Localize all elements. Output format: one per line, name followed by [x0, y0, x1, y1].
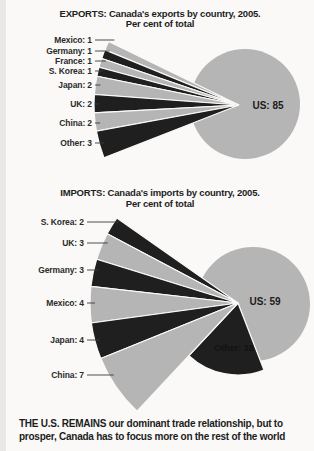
exports-us-slice-label: US: 85: [252, 100, 284, 111]
exports-slice-label-japan: Japan: 2: [58, 80, 92, 90]
exports-slice-label-mexico: Mexico: 1: [54, 35, 92, 45]
imports-slice-label-s-korea: S. Korea: 2: [41, 217, 85, 227]
bottom-caption: THE U.S. REMAINS our dominant trade rela…: [19, 417, 308, 443]
caption-line-1: THE U.S. REMAINS our dominant trade rela…: [19, 417, 308, 430]
imports-slice-label-china: China: 7: [51, 370, 84, 380]
caption-line-2: prosper, Canada has to focus more on the…: [19, 430, 308, 443]
trade-infographic: EXPORTS: Canada's exports by country, 20…: [6, 0, 314, 451]
imports-pie-chart: Other: 18S. Korea: 2UK: 3Germany: 3Mexic…: [38, 217, 310, 411]
exports-slice-label-france: France: 1: [55, 56, 92, 66]
imports-us-slice-label: US: 59: [249, 296, 281, 307]
imports-slice-label-japan: Japan: 4: [50, 335, 84, 345]
imports-slice-label-mexico: Mexico: 4: [46, 298, 84, 308]
exports-pie-chart: Mexico: 1Germany: 1France: 1S. Korea: 1J…: [46, 35, 300, 159]
exports-slice-label-s-korea: S. Korea: 1: [49, 66, 93, 76]
exports-slice-label-other: Other: 3: [60, 138, 92, 148]
pie-charts-canvas: Mexico: 1Germany: 1France: 1S. Korea: 1J…: [6, 0, 314, 451]
exports-slice-label-germany: Germany: 1: [46, 46, 92, 56]
imports-inner-slice-label: Other: 18: [214, 343, 254, 353]
exports-slice-label-uk: UK: 2: [70, 99, 92, 109]
imports-slice-label-germany: Germany: 3: [38, 265, 84, 275]
imports-slice-label-uk: UK: 3: [62, 238, 84, 248]
exports-slice-label-china: China: 2: [59, 118, 92, 128]
